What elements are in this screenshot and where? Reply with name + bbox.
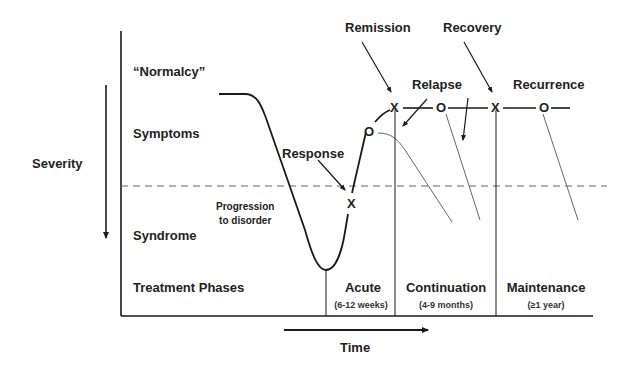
level-symptoms-label: Symptoms — [133, 126, 199, 141]
response-x-marker: X — [347, 196, 356, 211]
severity-curve — [219, 94, 348, 270]
phase-maintenance-label: Maintenance — [498, 280, 594, 295]
level-syndrome-label: Syndrome — [133, 228, 197, 243]
remission-arrow — [362, 42, 391, 92]
progression-label: Progression to disorder — [216, 200, 274, 228]
phase-continuation-duration: (4-9 months) — [396, 300, 496, 310]
remission-x-marker: X — [390, 100, 399, 115]
relapse-decline-1 — [378, 133, 452, 222]
relapse-arrow-2 — [463, 98, 468, 140]
recovery-arrow — [464, 42, 492, 92]
recovery-x-marker: X — [491, 100, 500, 115]
severity-curve-rise — [352, 132, 366, 193]
y-axis-label: Severity — [32, 156, 83, 171]
relapse-o-marker: O — [436, 100, 446, 115]
recurrence-o-marker: O — [539, 100, 549, 115]
response-label: Response — [282, 146, 344, 161]
relapse-label: Relapse — [412, 77, 462, 92]
partial-o-marker: O — [364, 124, 374, 139]
phase-acute-label: Acute — [338, 280, 388, 295]
severity-curve-top — [375, 110, 390, 122]
recurrence-label: Recurrence — [513, 77, 585, 92]
recurrence-decline — [543, 114, 578, 220]
recovery-label: Recovery — [443, 20, 502, 35]
treatment-phases-label: Treatment Phases — [133, 280, 244, 295]
remission-label: Remission — [345, 20, 411, 35]
relapse-arrow-1 — [403, 99, 427, 126]
diagram-canvas — [0, 0, 627, 369]
phase-maintenance-duration: (≥1 year) — [498, 300, 594, 310]
phase-acute-duration: (6-12 weeks) — [326, 300, 396, 310]
progression-line-2: to disorder — [216, 214, 274, 228]
level-normalcy-label: “Normalcy” — [133, 64, 205, 79]
relapse-decline-2 — [446, 114, 480, 220]
progression-line-1: Progression — [216, 200, 274, 214]
x-axis-label: Time — [340, 340, 370, 355]
phase-continuation-label: Continuation — [396, 280, 496, 295]
